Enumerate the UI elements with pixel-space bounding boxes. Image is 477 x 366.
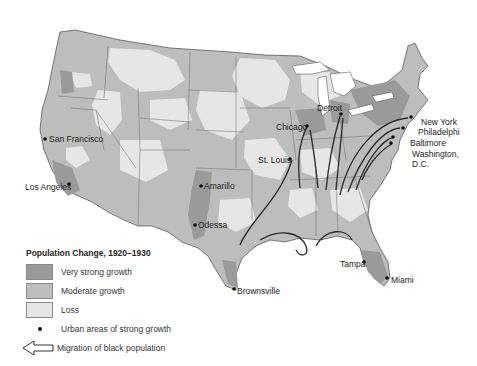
svg-text:Amarillo: Amarillo <box>204 181 235 191</box>
legend-item-loss: Loss <box>22 300 222 319</box>
city-tampa: Tampa <box>340 259 366 269</box>
city-brownsville: Brownsville <box>232 286 280 296</box>
swatch-moderate-growth <box>26 283 53 299</box>
legend-item-moderate-growth: Moderate growth <box>22 281 222 300</box>
svg-text:Philadelphi: Philadelphi <box>418 127 460 137</box>
svg-text:San Francisco: San Francisco <box>49 134 104 144</box>
svg-text:Odessa: Odessa <box>198 220 228 230</box>
legend-title: Population Change, 1920–1930 <box>26 248 222 258</box>
swatch-very-strong-growth <box>26 264 53 280</box>
legend-item-migration: Migration of black population <box>22 338 222 357</box>
svg-text:Tampa: Tampa <box>340 259 366 269</box>
city-st-louis: St. Louis <box>258 155 292 165</box>
map-legend: Population Change, 1920–1930 Very strong… <box>22 248 222 357</box>
svg-text:Los Angeles: Los Angeles <box>25 182 71 192</box>
city-los-angeles: Los Angeles <box>25 182 71 192</box>
city-san-francisco: San Francisco <box>43 134 103 144</box>
svg-text:Detroit: Detroit <box>317 103 343 113</box>
svg-text:Baltimore: Baltimore <box>410 138 446 148</box>
city-chicago: Chicago <box>276 122 309 132</box>
legend-label: Urban areas of strong growth <box>61 324 171 334</box>
svg-text:Miami: Miami <box>391 275 414 285</box>
legend-label: Moderate growth <box>61 286 125 296</box>
svg-text:Brownsville: Brownsville <box>237 286 280 296</box>
svg-text:D.C.: D.C. <box>412 159 429 169</box>
svg-text:New York: New York <box>421 117 458 127</box>
legend-item-urban-areas: Urban areas of strong growth <box>22 319 222 338</box>
svg-text:St. Louis: St. Louis <box>258 155 291 165</box>
city-amarillo: Amarillo <box>199 181 235 191</box>
migration-arrow-icon <box>22 340 54 356</box>
city-new-york: New York <box>409 115 457 127</box>
city-odessa: Odessa <box>193 220 227 230</box>
svg-text:Chicago: Chicago <box>276 122 307 132</box>
legend-label: Migration of black population <box>57 343 165 353</box>
legend-label: Very strong growth <box>61 267 132 277</box>
urban-dot-icon <box>38 327 42 331</box>
city-philadelphia: Philadelphi <box>401 126 459 137</box>
swatch-loss <box>26 302 53 318</box>
legend-label: Loss <box>61 305 79 315</box>
svg-text:Washington,: Washington, <box>412 149 459 159</box>
legend-item-very-strong-growth: Very strong growth <box>22 262 222 281</box>
